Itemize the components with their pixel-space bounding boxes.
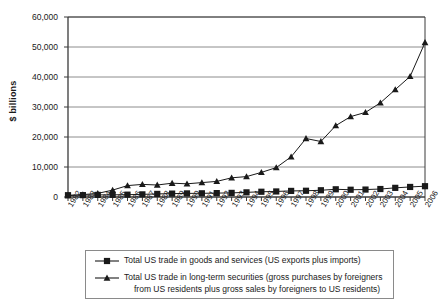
gridlines	[68, 17, 425, 167]
legend-label-1-line1: Total US trade in long-term securities (…	[124, 272, 382, 282]
chart-legend: Total US trade in goods and services (US…	[85, 250, 394, 299]
series-long-term-securities	[65, 39, 429, 198]
legend-label-0: Total US trade in goods and services (US…	[124, 255, 361, 265]
legend-label-1-line2: from US residents plus gross sales by fo…	[134, 284, 380, 294]
chart-container: $ billions 60,00050,00040,00030,00020,00…	[0, 0, 440, 305]
